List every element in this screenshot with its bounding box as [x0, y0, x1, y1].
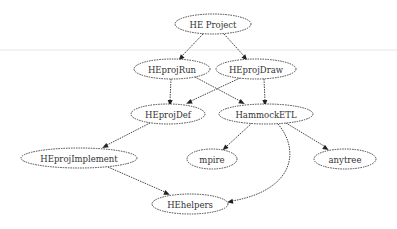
edge-line [286, 123, 324, 146]
arrowhead-icon [186, 99, 192, 104]
node-label: HammockETL [235, 110, 297, 120]
node-label: anytree [329, 155, 362, 165]
node-heprojdraw: HEprojDraw [216, 59, 296, 79]
edge-line [182, 34, 203, 56]
arrowhead-icon [163, 190, 169, 195]
edge-hammocketl-to-mpire [223, 123, 252, 150]
arrowhead-icon [238, 99, 244, 104]
edge-hammocketl-to-hehelpers [227, 124, 290, 204]
node-hehelpers: HEhelpers [152, 194, 228, 214]
edge-heprojimplement-to-hehelpers [108, 167, 170, 195]
node-anytree: anytree [314, 149, 376, 169]
edge-heprojdraw-to-heprojdef [186, 78, 240, 104]
node-label: HEhelpers [167, 200, 213, 210]
edge-line [232, 124, 290, 201]
node-heprojrun: HEprojRun [134, 59, 210, 79]
edge-heprojrun-to-hammocketl [195, 77, 245, 104]
node-label: HEprojDef [145, 110, 192, 120]
edge-he-project-to-heprojrun [179, 34, 203, 60]
nodes-layer: HE ProjectHEprojRunHEprojDrawHEprojDefHa… [21, 14, 376, 214]
edge-line [264, 79, 265, 101]
node-heprojdef: HEprojDef [131, 104, 205, 124]
node-he-project: HE Project [175, 14, 251, 34]
edge-he-project-to-heprojdraw [224, 34, 247, 61]
edge-heprojdraw-to-hammocketl [262, 79, 267, 106]
edge-line [227, 123, 252, 146]
edge-hammocketl-to-anytree [286, 123, 329, 150]
edge-heprojdef-to-heprojimplement [102, 123, 150, 148]
node-label: HEprojImplement [40, 154, 118, 164]
node-heprojimplement: HEprojImplement [21, 148, 137, 168]
edge-line [224, 34, 244, 56]
node-label: mpire [199, 155, 224, 165]
node-label: HE Project [189, 20, 237, 30]
dependency-graph: HE ProjectHEprojRunHEprojDrawHEprojDefHa… [0, 0, 397, 229]
edge-line [108, 167, 165, 192]
arrowhead-icon [102, 143, 108, 148]
node-label: HEprojRun [148, 65, 197, 75]
edge-line [107, 123, 150, 145]
edge-line [170, 79, 171, 101]
node-label: HEprojDraw [229, 65, 284, 75]
edge-heprojrun-to-heprojdef [168, 79, 173, 106]
node-hammocketl: HammockETL [219, 104, 313, 124]
node-mpire: mpire [187, 149, 237, 169]
